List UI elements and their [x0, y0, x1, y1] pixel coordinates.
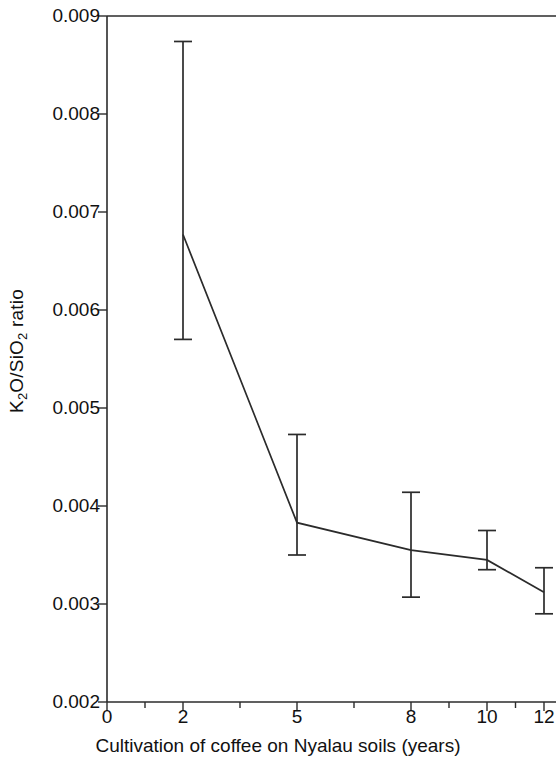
x-tick-label: 12 — [533, 707, 554, 726]
data-line-group — [183, 235, 544, 593]
x-tick-label: 2 — [178, 707, 189, 726]
y-axis-tick-labels: 0.0020.0030.0040.0050.0060.0070.0080.009 — [8, 0, 100, 767]
y-tick-label: 0.003 — [8, 594, 100, 613]
y-tick-label: 0.009 — [8, 6, 100, 25]
x-tick-label: 10 — [476, 707, 497, 726]
x-tick-label: 5 — [292, 707, 303, 726]
x-axis-tick-labels: 02581012 — [0, 707, 556, 733]
axes-group — [107, 16, 556, 702]
y-tick-label: 0.008 — [8, 104, 100, 123]
x-tick-label: 8 — [406, 707, 417, 726]
y-tick-label: 0.007 — [8, 202, 100, 221]
tick-marks-group — [98, 16, 544, 711]
x-tick-label: 0 — [102, 707, 113, 726]
y-tick-label: 0.004 — [8, 496, 100, 515]
y-tick-label: 0.005 — [8, 398, 100, 417]
error-bars-group — [174, 41, 553, 613]
y-tick-label: 0.006 — [8, 300, 100, 319]
chart-figure: K2O/SiO2 ratio 0.0020.0030.0040.0050.006… — [0, 0, 556, 767]
data-series-line — [183, 235, 544, 593]
x-axis-title: Cultivation of coffee on Nyalau soils (y… — [0, 735, 556, 757]
